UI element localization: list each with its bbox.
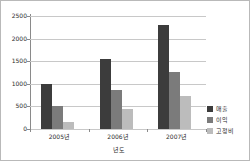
y-axis-tick-label: 500 (16, 103, 27, 109)
gridline (30, 129, 206, 130)
legend-item: 고정비 (207, 125, 250, 136)
bar (111, 90, 122, 129)
legend-swatch-icon (207, 117, 213, 123)
x-axis-tick-label: 2007년 (155, 132, 199, 141)
bar-group (158, 16, 191, 129)
x-axis-tick-mark (206, 129, 207, 132)
x-axis-tick-mark (147, 129, 148, 132)
bar-group (41, 16, 74, 129)
x-axis-tick-label: 2006년 (96, 132, 140, 141)
y-axis-tick-labels: 05001000150020002500 (1, 1, 27, 161)
x-axis-title: 년도 (30, 145, 207, 154)
legend-item: 매출 (207, 103, 250, 114)
x-axis-tick-label: 2005년 (37, 132, 81, 141)
legend-swatch-icon (207, 106, 213, 112)
y-axis-tick-mark (27, 61, 30, 62)
bar (63, 122, 74, 129)
y-axis-tick-mark (27, 16, 30, 17)
bar (100, 59, 111, 129)
legend-swatch-icon (207, 128, 213, 134)
legend-label: 매출 (216, 104, 228, 113)
bar (169, 72, 180, 129)
legend-label: 고정비 (216, 126, 234, 135)
bar (180, 96, 191, 129)
x-axis-tick-mark (89, 129, 90, 132)
chart-legend: 매출이익고정비 (207, 103, 250, 136)
bar (41, 84, 52, 129)
y-axis-tick-label: 1000 (12, 81, 27, 87)
legend-item: 이익 (207, 114, 250, 125)
bar (122, 109, 133, 129)
bar-group (100, 16, 133, 129)
chart-figure: 05001000150020002500 2005년2006년2007년 년도 … (0, 0, 250, 161)
y-axis-tick-label: 2000 (12, 36, 27, 42)
y-axis-tick-mark (27, 39, 30, 40)
x-axis-tick-mark (30, 129, 31, 132)
plot-area (30, 16, 206, 129)
bar (158, 25, 169, 129)
y-axis-tick-mark (27, 106, 30, 107)
y-axis-tick-mark (27, 84, 30, 85)
y-axis-tick-label: 2500 (12, 13, 27, 19)
y-axis-tick-label: 1500 (12, 58, 27, 64)
bar (52, 106, 63, 129)
legend-label: 이익 (216, 115, 228, 124)
